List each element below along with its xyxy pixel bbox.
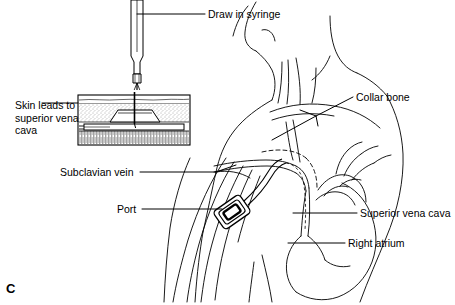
panel-label: C [6, 281, 15, 296]
label-draw-in-syringe: Draw in syringe [208, 8, 280, 21]
leader-collar-bone [316, 97, 353, 116]
anatomy-illustration [0, 0, 455, 305]
label-skin-leads-to-superior-vena-cava: Skin leads to superior vena cava [15, 99, 79, 137]
label-port: Port [117, 203, 136, 216]
figure-canvas: Draw in syringe Collar bone Superior ven… [0, 0, 455, 305]
label-collar-bone: Collar bone [356, 91, 410, 104]
label-right-atrium: Right atrium [348, 237, 405, 250]
label-subclavian-vein: Subclavian vein [60, 166, 134, 179]
body-outline [164, 2, 403, 302]
label-superior-vena-cava: Superior vena cava [360, 207, 450, 220]
skin-cross-section-inset [78, 92, 190, 145]
